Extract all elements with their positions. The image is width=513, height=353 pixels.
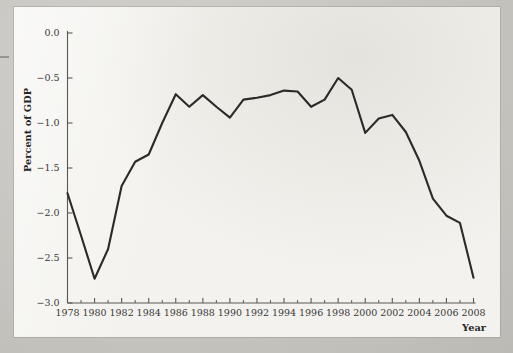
y-tick-label: −1.5 bbox=[36, 162, 59, 173]
y-axis-title: Percent of GDP bbox=[22, 87, 33, 172]
y-tick-label: 0.0 bbox=[44, 27, 59, 38]
x-tick-label: 1998 bbox=[326, 307, 350, 318]
y-tick-label: −2.5 bbox=[36, 252, 59, 263]
x-tick-label: 2008 bbox=[461, 307, 485, 318]
x-tick-label: 1990 bbox=[218, 307, 242, 318]
x-tick-label: 1992 bbox=[245, 307, 269, 318]
data-series-line bbox=[68, 78, 474, 279]
x-tick-label: 1980 bbox=[82, 307, 106, 318]
x-tick-label: 1982 bbox=[110, 307, 134, 318]
x-tick-label: 2006 bbox=[434, 307, 458, 318]
line-chart: 0.0−0.5−1.0−1.5−2.0−2.5−3.0 197819801982… bbox=[0, 0, 513, 353]
x-axis-ticks: 1978198019821984198619881990199219941996… bbox=[55, 298, 485, 318]
chart-axes bbox=[68, 31, 476, 303]
x-tick-label: 1988 bbox=[191, 307, 215, 318]
x-tick-label: 1984 bbox=[137, 307, 161, 318]
x-tick-label: 1996 bbox=[299, 307, 323, 318]
x-axis-title: Year bbox=[461, 322, 487, 333]
y-tick-label: −0.5 bbox=[36, 72, 59, 83]
x-tick-label: 1986 bbox=[164, 307, 188, 318]
screenshot-page: 0.0−0.5−1.0−1.5−2.0−2.5−3.0 197819801982… bbox=[0, 0, 513, 353]
x-tick-label: 1978 bbox=[55, 307, 79, 318]
y-tick-label: −1.0 bbox=[36, 117, 59, 128]
x-tick-label: 2002 bbox=[380, 307, 404, 318]
x-tick-label: 2004 bbox=[407, 307, 431, 318]
y-tick-label: −2.0 bbox=[36, 207, 59, 218]
x-tick-label: 1994 bbox=[272, 307, 296, 318]
x-tick-label: 2000 bbox=[353, 307, 377, 318]
